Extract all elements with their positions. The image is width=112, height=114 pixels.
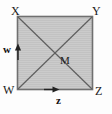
vertex-label-w: W — [3, 84, 14, 96]
vector-label-w: w — [3, 44, 11, 55]
vector-label-z: z — [56, 95, 61, 106]
geometry-figure: X Y Z W M w z — [0, 0, 112, 114]
vertex-label-y: Y — [92, 5, 101, 17]
vertex-label-z: Z — [95, 85, 102, 97]
vertex-label-x: X — [11, 5, 20, 17]
center-point-label-m: M — [60, 55, 70, 66]
